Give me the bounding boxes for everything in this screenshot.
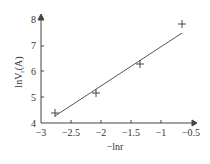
svg-text:−2: −2 [96,127,107,138]
svg-text:7: 7 [31,40,36,51]
svg-text:5: 5 [31,92,36,103]
svg-text:−1: −1 [156,127,167,138]
data-points [51,20,186,117]
y-label: lnVr(A) [13,56,26,87]
svg-text:−0.5: −0.5 [182,127,200,138]
fit-line [55,33,182,116]
svg-text:−3: −3 [36,127,47,138]
svg-text:6: 6 [31,66,36,77]
svg-text:8: 8 [31,14,36,25]
x-label: −lnr [107,141,124,152]
svg-text:−1.5: −1.5 [122,127,140,138]
chart: 4 5 6 7 8 −3 −2.5 −2 −1.5 −1 −0.5 −lnr l… [0,0,210,164]
svg-text:−2.5: −2.5 [62,127,80,138]
